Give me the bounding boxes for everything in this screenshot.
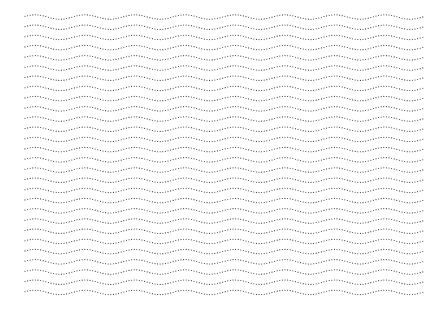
wave-row [24,106,423,112]
wave-row [24,35,423,40]
wave-row [24,86,423,92]
wave-row [24,65,423,70]
wave-row [24,167,423,173]
wave-row [24,45,423,50]
wave-row [24,249,423,255]
wave-row [24,75,423,81]
wave-row [24,96,423,102]
wave-row [24,290,423,296]
wave-row [24,177,423,183]
wave-row [24,137,423,143]
wave-row [24,218,423,224]
wave-row [24,147,423,153]
wave-row [24,239,423,245]
wave-row [24,198,423,204]
wave-row [24,188,423,194]
wave-row [24,259,423,265]
wave-row [24,208,423,214]
wave-row [24,279,423,285]
wavy-dotted-line-pattern [0,0,448,316]
wave-row [24,55,423,61]
wave-row [24,126,423,132]
wave-row [24,24,423,30]
wave-row [24,157,423,163]
wave-row [24,269,423,275]
wave-row [24,228,423,234]
wave-row [24,14,423,20]
wave-row [24,116,423,121]
